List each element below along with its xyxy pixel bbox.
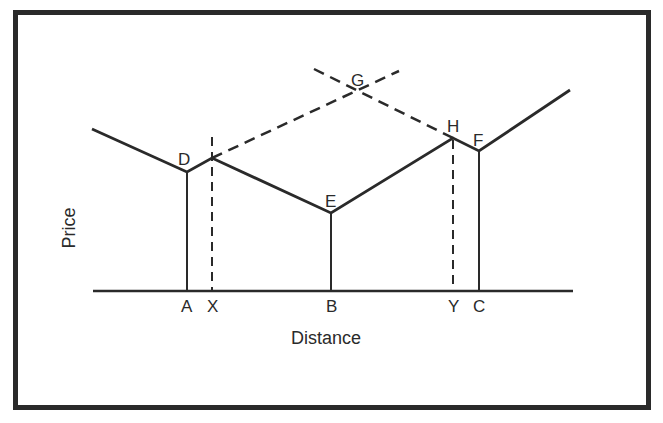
label-B: B — [326, 297, 337, 316]
label-Y: Y — [448, 297, 459, 316]
label-C: C — [473, 297, 485, 316]
label-G: G — [351, 71, 364, 90]
label-A: A — [181, 297, 193, 316]
label-X: X — [207, 297, 218, 316]
label-F: F — [473, 131, 483, 150]
x-axis-title: Distance — [291, 328, 361, 348]
dashed-line-X-to-G — [212, 71, 399, 158]
label-H: H — [447, 117, 459, 136]
y-axis-title: Price — [59, 207, 79, 248]
price-distance-diagram: D E F G H A X B Y C Distance Price — [0, 0, 663, 423]
label-D: D — [178, 150, 190, 169]
label-E: E — [325, 192, 336, 211]
